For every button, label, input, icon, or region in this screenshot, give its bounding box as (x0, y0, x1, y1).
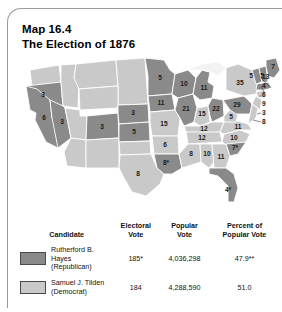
header-candidate: Candidate (20, 222, 113, 242)
election-map: 3 6 3 3 3 5 8 5 11 15 6 8* 10 21 11 15 2… (12, 56, 280, 218)
label-ar: 6 (163, 141, 167, 148)
cell-popular-tilden: 4,288,590 (158, 275, 211, 300)
header-electoral-vote: Electoral Vote (113, 222, 158, 242)
table-row: Samuel J. Tilden (Democrat) 184 4,288,59… (20, 275, 278, 300)
label-va: 11 (235, 123, 242, 130)
label-fl: 4* (225, 186, 232, 193)
leader-md (253, 120, 261, 122)
label-ks: 5 (132, 128, 136, 135)
header-electoral-vote-l2: Vote (128, 230, 143, 239)
cell-candidate-hayes: Rutherford B. Hayes (Republican) (20, 242, 113, 275)
state-nm (86, 138, 119, 168)
state-az (64, 138, 86, 168)
label-ny: 35 (236, 79, 244, 86)
table-header-row: Candidate Electoral Vote Popular Vote Pe… (20, 222, 278, 242)
legend-swatch-hayes (20, 252, 46, 265)
label-oh: 22 (212, 105, 220, 112)
header-percent-l2: Popular Vote (223, 230, 267, 239)
label-nc: 10 (230, 134, 238, 141)
state-fl (209, 168, 238, 202)
label-nv: 3 (60, 118, 64, 125)
label-ct: 6 (262, 91, 266, 98)
leader-de (257, 113, 261, 114)
label-md: 8 (262, 118, 266, 125)
label-de: 3 (262, 109, 266, 116)
cell-candidate-tilden: Samuel J. Tilden (Democrat) (20, 275, 113, 300)
label-me: 7 (271, 63, 275, 70)
candidate-name-hayes-l2: (Republican) (51, 262, 92, 271)
figure-map-16-4: Map 16.4 The Election of 1876 (0, 0, 282, 312)
candidate-name-hayes: Rutherford B. Hayes (Republican) (51, 246, 113, 271)
label-ms: 8 (189, 150, 193, 157)
label-ca: 6 (42, 114, 46, 121)
label-or: 3 (41, 91, 45, 98)
label-la: 8* (163, 159, 170, 166)
legend-swatch-tilden (20, 281, 46, 294)
label-ma: 13 (262, 73, 270, 80)
label-in: 15 (198, 110, 206, 117)
label-wv: 5 (229, 113, 233, 120)
label-ia: 11 (158, 99, 165, 106)
label-tx: 8 (136, 170, 140, 177)
header-popular-vote-l2: Vote (177, 230, 192, 239)
cell-electoral-tilden: 184 (113, 275, 158, 300)
label-ne: 3 (131, 109, 135, 116)
state-mt (74, 60, 118, 89)
label-ga: 11 (218, 153, 225, 160)
candidate-name-tilden: Samuel J. Tilden (Democrat) (51, 279, 104, 296)
label-co: 3 (100, 123, 104, 130)
figure-title: Map 16.4 The Election of 1876 (22, 22, 135, 51)
state-it (119, 141, 151, 155)
label-ri: 4 (262, 82, 266, 89)
table-row: Rutherford B. Hayes (Republican) 185* 4,… (20, 242, 278, 275)
label-ky: 12 (200, 125, 208, 132)
label-pa: 29 (233, 101, 241, 108)
candidate-name-hayes-l1: Rutherford B. Hayes (51, 245, 94, 262)
label-mo: 15 (160, 120, 168, 127)
state-dk (116, 58, 148, 105)
label-al: 10 (203, 150, 211, 157)
state-wy (79, 86, 118, 110)
label-wi: 10 (180, 80, 188, 87)
map-number: Map 16.4 (22, 22, 135, 37)
map-title: The Election of 1876 (22, 37, 135, 52)
candidate-name-tilden-l2: (Democrat) (51, 287, 87, 296)
cell-electoral-hayes: 185* (113, 242, 158, 275)
results-table: Candidate Electoral Vote Popular Vote Pe… (20, 222, 278, 300)
label-mn: 5 (158, 74, 162, 81)
cell-percent-hayes: 47.9** (211, 242, 278, 275)
label-mi: 11 (201, 84, 208, 91)
header-percent: Percent of Popular Vote (211, 222, 278, 242)
label-sc: 7* (232, 144, 239, 151)
label-nj: 9 (262, 100, 266, 107)
cell-percent-tilden: 51.0 (211, 275, 278, 300)
cell-popular-hayes: 4,036,298 (158, 242, 211, 275)
label-vt: 5 (249, 72, 253, 79)
label-tn: 12 (198, 134, 206, 141)
header-popular-vote: Popular Vote (158, 222, 211, 242)
label-il: 21 (182, 105, 190, 112)
